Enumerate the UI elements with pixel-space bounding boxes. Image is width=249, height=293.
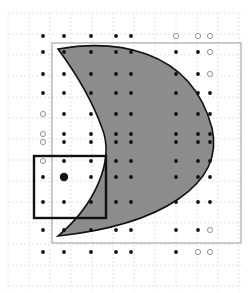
filled-point bbox=[129, 72, 133, 76]
filled-point bbox=[174, 132, 178, 136]
filled-point bbox=[41, 50, 45, 54]
filled-point bbox=[129, 34, 133, 38]
filled-point bbox=[196, 50, 200, 54]
filled-point bbox=[174, 112, 178, 116]
filled-point bbox=[62, 112, 66, 116]
filled-point bbox=[114, 250, 118, 254]
filled-point bbox=[114, 34, 118, 38]
filled-point bbox=[114, 175, 118, 179]
filled-point bbox=[174, 72, 178, 76]
filled-point bbox=[114, 140, 118, 144]
filled-point bbox=[114, 200, 118, 204]
filled-point bbox=[89, 175, 93, 179]
filled-point bbox=[208, 140, 212, 144]
hollow-point bbox=[173, 33, 178, 38]
filled-point bbox=[89, 250, 93, 254]
filled-point bbox=[208, 175, 212, 179]
filled-point bbox=[41, 91, 45, 95]
filled-point bbox=[196, 112, 200, 116]
filled-point bbox=[208, 91, 212, 95]
filled-point bbox=[62, 132, 66, 136]
hollow-point bbox=[207, 49, 212, 54]
filled-point bbox=[208, 112, 212, 116]
hollow-point bbox=[207, 227, 212, 232]
filled-point bbox=[196, 72, 200, 76]
diagram-canvas bbox=[0, 0, 249, 293]
filled-point bbox=[62, 34, 66, 38]
hollow-point bbox=[40, 111, 45, 116]
filled-point bbox=[89, 72, 93, 76]
filled-point bbox=[89, 200, 93, 204]
hollow-point bbox=[40, 158, 45, 163]
filled-point bbox=[114, 72, 118, 76]
hollow-point bbox=[195, 249, 200, 254]
filled-point bbox=[196, 132, 200, 136]
filled-point bbox=[174, 175, 178, 179]
filled-point bbox=[174, 250, 178, 254]
filled-point bbox=[174, 140, 178, 144]
filled-point bbox=[114, 91, 118, 95]
filled-point bbox=[41, 250, 45, 254]
crescent-shape bbox=[58, 46, 214, 236]
filled-point bbox=[62, 72, 66, 76]
filled-point bbox=[62, 159, 66, 163]
filled-point bbox=[114, 112, 118, 116]
hollow-point bbox=[40, 131, 45, 136]
diagram-svg bbox=[0, 0, 249, 293]
filled-point bbox=[208, 132, 212, 136]
filled-point bbox=[196, 159, 200, 163]
filled-point bbox=[196, 175, 200, 179]
filled-point bbox=[89, 140, 93, 144]
filled-point bbox=[89, 112, 93, 116]
filled-point bbox=[129, 175, 133, 179]
filled-point bbox=[196, 140, 200, 144]
filled-point bbox=[89, 132, 93, 136]
filled-point bbox=[89, 34, 93, 38]
filled-point bbox=[62, 250, 66, 254]
filled-point bbox=[208, 200, 212, 204]
filled-point bbox=[41, 175, 45, 179]
filled-point bbox=[41, 34, 45, 38]
filled-point bbox=[174, 228, 178, 232]
filled-point bbox=[129, 140, 133, 144]
filled-point bbox=[114, 50, 118, 54]
hollow-point bbox=[40, 139, 45, 144]
filled-point bbox=[114, 228, 118, 232]
filled-point bbox=[89, 159, 93, 163]
filled-point bbox=[174, 50, 178, 54]
filled-point bbox=[174, 159, 178, 163]
hollow-point bbox=[207, 33, 212, 38]
hollow-point bbox=[207, 249, 212, 254]
filled-point bbox=[41, 200, 45, 204]
filled-point bbox=[129, 250, 133, 254]
filled-point bbox=[114, 159, 118, 163]
filled-point bbox=[196, 228, 200, 232]
filled-point bbox=[41, 72, 45, 76]
filled-point bbox=[62, 50, 66, 54]
filled-point bbox=[129, 228, 133, 232]
filled-point bbox=[62, 140, 66, 144]
filled-point bbox=[62, 200, 66, 204]
highlighted-point[interactable] bbox=[60, 173, 68, 181]
filled-point bbox=[89, 228, 93, 232]
filled-point bbox=[129, 200, 133, 204]
filled-point bbox=[41, 228, 45, 232]
filled-point bbox=[129, 50, 133, 54]
filled-point bbox=[129, 112, 133, 116]
hollow-point bbox=[207, 71, 212, 76]
filled-point bbox=[174, 200, 178, 204]
filled-point bbox=[129, 132, 133, 136]
filled-point bbox=[89, 50, 93, 54]
filled-point bbox=[196, 200, 200, 204]
filled-point bbox=[62, 91, 66, 95]
filled-point bbox=[89, 91, 93, 95]
filled-point bbox=[196, 91, 200, 95]
filled-point bbox=[62, 228, 66, 232]
hollow-point bbox=[195, 33, 200, 38]
filled-point bbox=[208, 159, 212, 163]
filled-point bbox=[174, 91, 178, 95]
filled-point bbox=[114, 132, 118, 136]
filled-point bbox=[129, 91, 133, 95]
filled-point bbox=[129, 159, 133, 163]
